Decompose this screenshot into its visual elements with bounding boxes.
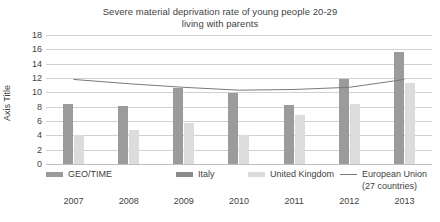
bar-italy-2007 xyxy=(63,104,73,164)
bar-italy-2008 xyxy=(118,106,128,164)
x-tick-label-2008: 2008 xyxy=(119,196,139,206)
y-tick-label-8: 8 xyxy=(37,102,42,112)
y-tick-label-14: 14 xyxy=(32,59,42,69)
chart-container: Severe material deprivation rate of youn… xyxy=(0,0,440,222)
bar-series-layer xyxy=(46,35,432,164)
bar-united-kingdom-2007 xyxy=(74,135,84,164)
legend-label: GEO/TIME xyxy=(68,168,112,180)
gridline-0 xyxy=(46,164,432,165)
legend-label: European Union(27 countries) xyxy=(362,168,427,192)
y-tick-label-6: 6 xyxy=(37,116,42,126)
bar-united-kingdom-2013 xyxy=(405,83,415,164)
bar-united-kingdom-2010 xyxy=(239,135,249,164)
y-tick-label-0: 0 xyxy=(37,159,42,169)
chart-title: Severe material deprivation rate of youn… xyxy=(0,6,440,30)
bar-group-2012 xyxy=(322,35,377,164)
legend-label: Italy xyxy=(198,168,215,180)
legend-label: United Kingdom xyxy=(270,168,334,180)
bar-italy-2013 xyxy=(394,52,404,164)
bar-italy-2010 xyxy=(228,93,238,164)
x-tick-label-2011: 2011 xyxy=(284,196,303,206)
legend-swatch-icon xyxy=(46,172,63,177)
bar-italy-2011 xyxy=(284,105,294,164)
chart-title-line-2: living with parents xyxy=(0,18,440,30)
chart-legend: GEO/TIMEItalyUnited KingdomEuropean Unio… xyxy=(46,168,436,196)
x-tick-label-2007: 2007 xyxy=(64,196,84,206)
y-tick-label-18: 18 xyxy=(32,30,42,40)
bar-group-2011 xyxy=(267,35,322,164)
legend-swatch-icon xyxy=(248,172,265,177)
y-tick-label-16: 16 xyxy=(32,44,42,54)
y-tick-label-4: 4 xyxy=(37,130,42,140)
legend-swatch-icon xyxy=(176,172,193,177)
legend-item-geo-time[interactable]: GEO/TIME xyxy=(46,168,112,180)
bar-group-2010 xyxy=(211,35,266,164)
bar-united-kingdom-2009 xyxy=(184,123,194,164)
bar-united-kingdom-2011 xyxy=(295,115,305,164)
plot-area: 024681012141618 xyxy=(46,35,432,164)
x-tick-label-2013: 2013 xyxy=(394,196,414,206)
y-axis-title: Axis Title xyxy=(2,68,16,138)
x-tick-label-2012: 2012 xyxy=(339,196,359,206)
bar-group-2008 xyxy=(101,35,156,164)
chart-title-line-1: Severe material deprivation rate of youn… xyxy=(0,6,440,18)
legend-label-sub: (27 countries) xyxy=(362,180,427,192)
y-tick-label-10: 10 xyxy=(32,87,42,97)
legend-item-european-union[interactable]: European Union(27 countries) xyxy=(340,168,427,192)
y-tick-label-12: 12 xyxy=(32,73,42,83)
bar-group-2009 xyxy=(156,35,211,164)
x-tick-label-2009: 2009 xyxy=(174,196,194,206)
bar-italy-2009 xyxy=(173,88,183,164)
x-tick-label-2010: 2010 xyxy=(229,196,249,206)
bar-united-kingdom-2012 xyxy=(350,104,360,164)
bar-italy-2012 xyxy=(339,79,349,164)
legend-swatch-icon xyxy=(340,174,357,175)
bar-united-kingdom-2008 xyxy=(129,130,139,164)
bar-group-2007 xyxy=(46,35,101,164)
legend-item-united-kingdom[interactable]: United Kingdom xyxy=(248,168,334,180)
y-tick-label-2: 2 xyxy=(37,145,42,155)
bar-group-2013 xyxy=(377,35,432,164)
legend-item-italy[interactable]: Italy xyxy=(176,168,215,180)
x-axis-ticks: 2007200820092010201120122013 xyxy=(46,196,432,212)
